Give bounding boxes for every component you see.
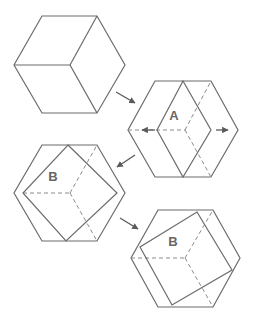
face-label: B bbox=[48, 169, 57, 184]
cube-edge bbox=[70, 65, 97, 113]
panel-step-4: B bbox=[131, 210, 240, 307]
face-label: B bbox=[168, 234, 177, 249]
cube-edge bbox=[70, 16, 97, 65]
hexagon-outline bbox=[128, 81, 238, 177]
panels-layer: ABB bbox=[14, 16, 240, 307]
panel-step-1 bbox=[14, 16, 125, 113]
hexagon-cube-transformation-diagram: ABB bbox=[0, 0, 253, 326]
panel-step-3: B bbox=[14, 145, 125, 241]
step-arrow-icon bbox=[117, 155, 135, 167]
diagram-canvas: ABB bbox=[0, 0, 253, 326]
face-label: A bbox=[169, 108, 179, 123]
transition-arrows-layer bbox=[116, 92, 138, 229]
hidden-edge-dashed bbox=[185, 258, 213, 307]
panel-step-2: A bbox=[128, 81, 238, 177]
step-arrow-icon bbox=[120, 218, 138, 229]
step-arrow-icon bbox=[116, 92, 135, 103]
